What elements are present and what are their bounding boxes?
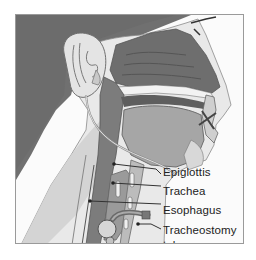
label-tracheostomy: Tracheostomy <box>163 225 237 237</box>
tube-cuff <box>98 220 116 238</box>
label-epiglottis: Epiglottis <box>163 167 211 179</box>
label-trachea: Trachea <box>163 186 205 198</box>
anatomy-figure: Epiglottis Trachea Esophagus Tracheostom… <box>15 14 244 244</box>
label-tube: tube <box>163 240 186 244</box>
label-esophagus: Esophagus <box>163 205 221 217</box>
